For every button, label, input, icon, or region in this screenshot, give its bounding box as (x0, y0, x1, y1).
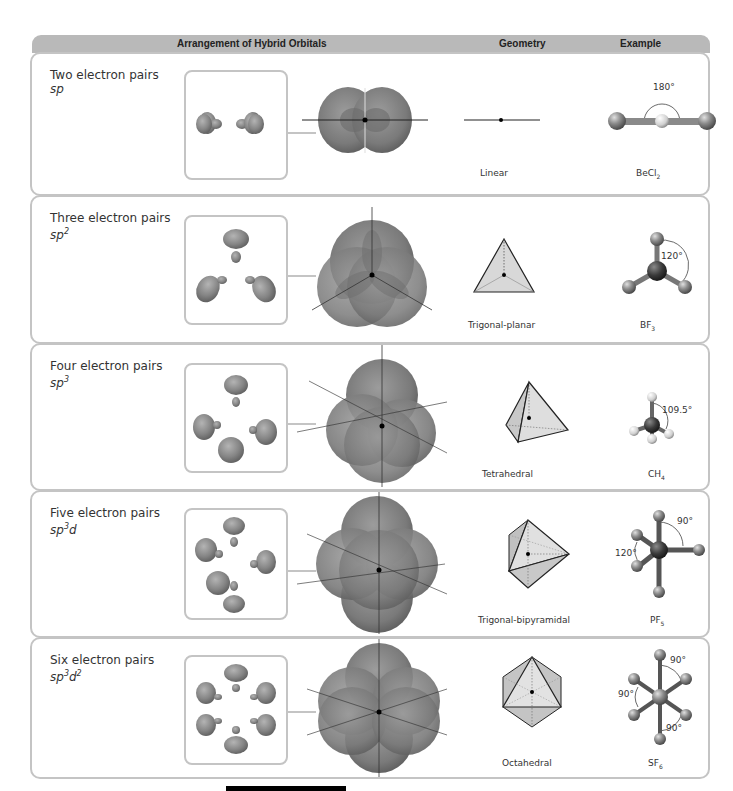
sp3-orbitals-icon (186, 365, 286, 471)
header-geometry: Geometry (499, 38, 546, 49)
table-header: Arrangement of Hybrid Orbitals Geometry … (32, 35, 710, 53)
row-sp3d2: Six electron pairs sp3d2 (30, 637, 710, 779)
row-label: Five electron pairs sp3d (50, 506, 160, 537)
svg-text:90°: 90° (677, 516, 693, 526)
sf6-model-icon: 90° 90° 90° (618, 649, 718, 749)
header-example: Example (620, 38, 661, 49)
example-label: BF3 (640, 320, 655, 332)
example-label: CH4 (648, 469, 665, 481)
sp-orbitals-icon (186, 72, 286, 178)
sp3d-orbitals-icon (186, 510, 286, 618)
becl2-model-icon: 180° (607, 78, 717, 138)
linear-geometry-icon (462, 114, 542, 126)
bf3-model-icon: 120° (615, 229, 705, 303)
geometry-label: Trigonal-bipyramidal (478, 615, 570, 625)
geometry-label: Tetrahedral (482, 469, 533, 479)
geometry-label: Linear (480, 168, 508, 178)
sp2-orbitals-icon (186, 217, 286, 323)
row-label: Three electron pairs sp2 (50, 211, 171, 242)
pairs-label: Five electron pairs (50, 506, 160, 520)
orbital-inset (184, 70, 288, 180)
svg-text:109.5°: 109.5° (662, 405, 692, 415)
row-label: Six electron pairs sp3d2 (50, 653, 154, 684)
trigonal-bipyramidal-geometry-icon (507, 518, 573, 592)
geometry-label: Octahedral (502, 758, 552, 768)
svg-text:180°: 180° (653, 82, 675, 92)
sp3d2-orbitals-icon (186, 657, 286, 763)
hybrid-label: sp2 (50, 225, 171, 242)
row-label: Four electron pairs sp3 (50, 359, 163, 390)
row-label: Two electron pairs sp (50, 68, 159, 96)
pairs-label: Three electron pairs (50, 211, 171, 225)
sp-combined-orbital-icon (300, 74, 430, 174)
header-arrangement: Arrangement of Hybrid Orbitals (177, 38, 326, 49)
pairs-label: Six electron pairs (50, 653, 154, 667)
svg-text:90°: 90° (670, 655, 686, 665)
sp3d-combined-orbital-icon (297, 492, 447, 637)
sp3-combined-orbital-icon (297, 345, 447, 490)
octahedral-geometry-icon (501, 655, 563, 729)
ch4-model-icon: 109.5° (626, 387, 710, 449)
svg-text:120°: 120° (661, 251, 683, 261)
hybrid-label: sp (50, 82, 159, 96)
pf5-model-icon: 90° 120° (615, 508, 715, 604)
orbital-inset (184, 363, 288, 473)
pairs-label: Two electron pairs (50, 68, 159, 82)
geometry-label: Trigonal-planar (468, 320, 535, 330)
example-label: PF5 (650, 615, 664, 627)
example-label: BeCl2 (636, 168, 660, 180)
row-sp3d: Five electron pairs sp3d (30, 490, 710, 638)
row-sp: Two electron pairs sp Linear 180° (30, 52, 710, 196)
svg-text:90°: 90° (666, 723, 682, 733)
pairs-label: Four electron pairs (50, 359, 163, 373)
example-label: SF6 (648, 758, 663, 770)
tetrahedral-geometry-icon (504, 380, 570, 444)
row-sp3: Four electron pairs sp3 Tetrahedral (30, 343, 710, 491)
svg-text:120°: 120° (615, 548, 637, 558)
row-sp2: Three electron pairs sp2 Trigonal (30, 195, 710, 344)
sp3d2-combined-orbital-icon (297, 639, 447, 779)
hybrid-label: sp3d2 (50, 667, 154, 684)
orbital-inset (184, 655, 288, 765)
orbital-inset (184, 508, 288, 620)
trigonal-planar-geometry-icon (472, 237, 536, 295)
svg-text:90°: 90° (618, 689, 634, 699)
orbital-inset (184, 215, 288, 325)
hybrid-label: sp3d (50, 520, 160, 537)
hybrid-label: sp3 (50, 373, 163, 390)
bottom-bar (226, 786, 346, 791)
sp2-combined-orbital-icon (307, 207, 437, 337)
